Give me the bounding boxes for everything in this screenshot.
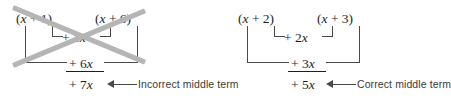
outer-bracket-right-foot: [326, 62, 360, 63]
inner-product-term: + 2x: [284, 31, 308, 45]
arrow-left-icon: [326, 80, 356, 89]
factor-right-binomial: (x + 3): [317, 12, 353, 26]
arrow-left-icon: [107, 80, 137, 89]
outer-bracket-left-stem: [25, 26, 26, 63]
factor-left-binomial: (x + 2): [238, 12, 274, 26]
factoring-diagram-incorrect: (x + 1) (x + 6) + 1x + 6x + 7x Incorrect…: [0, 0, 226, 99]
outer-bracket-left-stem: [247, 26, 248, 63]
outer-product-term: + 3x: [291, 57, 315, 71]
outer-bracket-right-stem: [359, 26, 360, 63]
inner-product-term: + 1x: [62, 31, 86, 45]
outer-bracket-right-stem: [137, 26, 138, 63]
middle-term-total: + 7x: [69, 78, 93, 92]
factor-right-binomial: (x + 6): [95, 12, 131, 26]
middle-term-total: + 5x: [291, 78, 315, 92]
sum-rule-line: [66, 71, 104, 72]
annotation-incorrect: Incorrect middle term: [107, 78, 239, 90]
inner-bracket-right-stem: [110, 26, 111, 37]
figure-root: (x + 1) (x + 6) + 1x + 6x + 7x Incorrect…: [0, 0, 451, 99]
annotation-label: Correct middle term: [357, 78, 451, 90]
sum-rule-line: [288, 71, 326, 72]
factor-left-binomial: (x + 1): [16, 12, 52, 26]
outer-bracket-right-foot: [104, 62, 138, 63]
outer-bracket-left-foot: [25, 62, 67, 63]
outer-product-term: + 6x: [69, 57, 93, 71]
annotation-correct: Correct middle term: [326, 78, 451, 90]
outer-bracket-left-foot: [247, 62, 289, 63]
factoring-diagram-correct: (x + 2) (x + 3) + 2x + 3x + 5x Correct m…: [222, 0, 448, 99]
inner-bracket-right-stem: [332, 26, 333, 37]
